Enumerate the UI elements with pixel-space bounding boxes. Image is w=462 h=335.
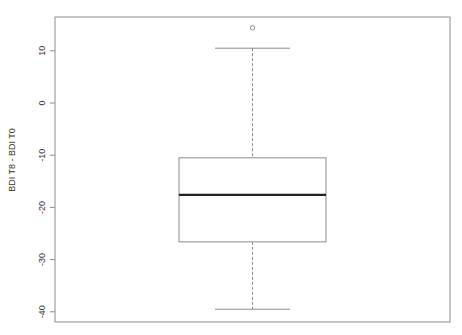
y-axis-label: BDI T8 - BDI T0 bbox=[7, 128, 17, 192]
boxplot-chart: 100-10-20-30-40 BDI T8 - BDI T0 bbox=[0, 0, 462, 335]
y-tick-label: -20 bbox=[37, 201, 47, 214]
y-axis: 100-10-20-30-40 bbox=[37, 46, 55, 319]
y-tick-label: 10 bbox=[37, 46, 47, 56]
box-series bbox=[179, 26, 326, 310]
y-tick-label: 0 bbox=[37, 100, 47, 105]
y-tick-label: -10 bbox=[37, 149, 47, 162]
outlier-point bbox=[250, 26, 254, 30]
iqr-box bbox=[179, 158, 326, 242]
y-tick-label: -30 bbox=[37, 253, 47, 266]
y-tick-label: -40 bbox=[37, 305, 47, 318]
